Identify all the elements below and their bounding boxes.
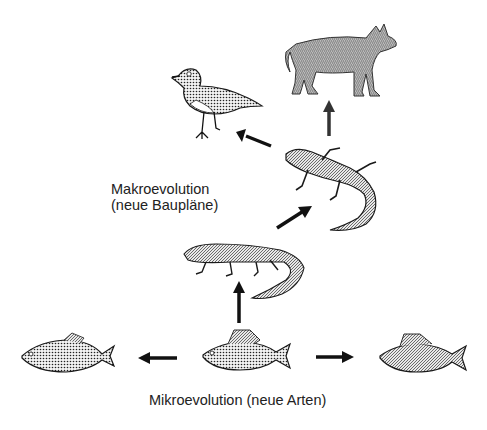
fish-left-illustration xyxy=(22,333,114,372)
macroevolution-title: Makroevolution xyxy=(111,181,218,197)
macroevolution-label: Makroevolution (neue Baupläne) xyxy=(111,181,218,213)
lizard-illustration xyxy=(286,148,376,230)
amphibian-illustration xyxy=(184,244,304,299)
bird-illustration xyxy=(172,69,262,139)
wolf-illustration xyxy=(286,24,397,96)
arrow-to-lizard xyxy=(277,206,312,228)
arrow-to-bird xyxy=(236,129,271,146)
evolution-diagram xyxy=(0,0,487,430)
arrow-to-amphibian xyxy=(233,281,245,323)
microevolution-label: Mikroevolution (neue Arten) xyxy=(149,392,326,408)
arrow-to-fish-left xyxy=(138,352,177,364)
fish-center-illustration xyxy=(203,330,290,370)
arrow-to-wolf xyxy=(323,100,335,136)
arrow-to-fish-right xyxy=(316,351,354,363)
macroevolution-subtitle: (neue Baupläne) xyxy=(111,197,218,213)
fish-right-illustration xyxy=(380,334,466,372)
